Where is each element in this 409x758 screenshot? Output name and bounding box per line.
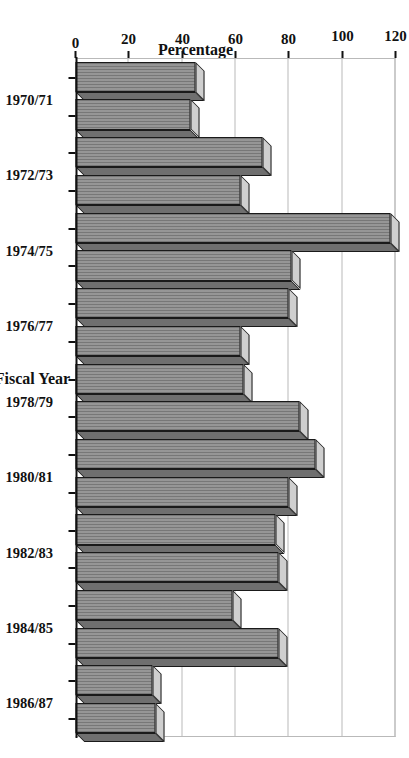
category-axis-tick [68,643,75,645]
value-axis-tick [234,51,236,58]
category-axis-tick [68,303,75,305]
bar [75,62,204,92]
category-axis-tick [68,492,75,494]
bar-front-face [75,137,262,167]
bar [75,628,287,658]
value-axis-tick-label-text: 80 [281,31,296,48]
bar [75,665,161,695]
category-axis-tick-label: 1984/85 [44,605,61,653]
bar-front-face [75,590,232,620]
bar-front-face [75,439,315,469]
category-axis-tick-label: 1974/75 [44,228,61,276]
category-axis-tick [68,567,75,569]
value-axis-tick [394,51,396,58]
bar [75,364,252,394]
bar [75,250,300,280]
chart-area: Percentage Fiscal Year 020406080100120 1… [0,0,409,758]
category-axis-tick [68,530,75,532]
value-axis-tick-label: 120 [387,25,404,48]
bar-front-face [75,213,390,243]
category-axis-tick [68,228,75,230]
category-axis-tick-label: 1982/83 [44,530,61,578]
bar-front-face [75,514,275,544]
category-axis-tick-label: 1978/79 [44,379,61,427]
category-axis-tick [68,454,75,456]
plot-area: 020406080100120 1970/711972/731974/75197… [75,58,395,737]
category-axis-tick [68,605,75,607]
bar-front-face [75,628,278,658]
bar-front-face [75,62,195,92]
category-axis-tick-label-text: 1976/77 [5,318,53,335]
value-axis-tick-label: 0 [67,40,84,48]
value-axis-tick-label-text: 120 [384,27,407,44]
bar [75,401,308,431]
bar [75,137,271,167]
bar-front-face [75,703,155,733]
value-axis-tick [127,51,129,58]
category-axis-tick [68,77,75,79]
category-axis-tick [68,115,75,117]
category-axis-tick-label-text: 1982/83 [5,545,53,562]
category-axis-tick-label: 1980/81 [44,454,61,502]
bar-front-face [75,364,243,394]
value-axis-tick-label-text: 0 [71,35,79,52]
category-axis-tick-label-text: 1978/79 [5,394,53,411]
bar [75,326,249,356]
category-axis-tick-label: 1972/73 [44,152,61,200]
category-axis-tick [68,265,75,267]
bar [75,477,297,507]
category-axis-tick-label-text: 1970/71 [5,92,53,109]
category-axis-tick-label-text: 1974/75 [5,243,53,260]
bar-front-face [75,477,288,507]
bar-front-face [75,665,152,695]
value-axis-tick-label-text: 40 [174,31,189,48]
category-axis-tick [68,152,75,154]
value-axis-tick [287,51,289,58]
category-axis-tick [68,190,75,192]
category-axis-tick-label: 1986/87 [44,680,61,728]
category-axis-tick [68,379,75,381]
bar [75,288,297,318]
category-axis-tick-label-text: 1980/81 [5,469,53,486]
bar-front-face [75,401,299,431]
bar [75,99,199,129]
value-axis-tick-label-text: 60 [228,31,243,48]
value-axis-tick [181,51,183,58]
category-axis-tick [68,680,75,682]
bar-front-face [75,552,278,582]
value-axis-tick-label: 60 [227,32,244,47]
value-axis-tick-label-text: 20 [121,31,136,48]
bar-front-face [75,288,288,318]
bar-front-face [75,326,240,356]
bar-front-face [75,99,190,129]
bar-front-face [75,175,240,205]
value-axis-tick-label-text: 100 [330,27,353,44]
category-axis-tick [68,341,75,343]
value-axis-tick-label: 80 [280,32,297,47]
category-axis-tick [68,718,75,720]
bar [75,213,399,243]
bar-series [75,58,395,737]
bar-side-face [75,733,164,742]
value-axis-tick [341,51,343,58]
category-axis-tick [68,416,75,418]
chart-canvas: Percentage Fiscal Year 020406080100120 1… [0,0,409,758]
category-axis-tick-label: 1970/71 [44,77,61,125]
value-axis-tick-label: 100 [333,25,350,48]
bar [75,175,249,205]
value-axis-tick-label: 40 [173,32,190,47]
category-axis-tick-label: 1976/77 [44,303,61,351]
value-axis-title-label: Percentage [158,41,233,59]
bar [75,590,241,620]
bar [75,439,324,469]
value-axis-tick-label: 20 [120,32,137,47]
category-axis-tick-label-text: 1986/87 [5,696,53,713]
value-baseline [75,57,77,738]
category-axis-tick-label-text: 1984/85 [5,620,53,637]
bar [75,552,287,582]
bar [75,703,164,733]
category-axis-tick-label-text: 1972/73 [5,168,53,185]
bar-front-face [75,250,291,280]
bar [75,514,284,544]
